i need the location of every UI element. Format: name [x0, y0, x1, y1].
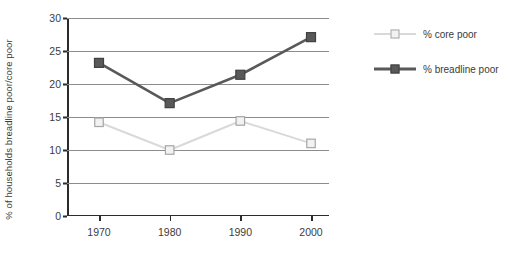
series-line	[99, 37, 311, 103]
series-line	[99, 121, 311, 150]
x-tick-mark	[240, 216, 242, 221]
data-point-marker	[95, 118, 104, 127]
data-point-marker	[307, 33, 316, 42]
x-tick-mark	[311, 216, 313, 221]
series-layer	[67, 18, 329, 216]
data-point-marker	[307, 139, 316, 148]
plot-area: 051015202530 1970198019902000	[67, 18, 329, 216]
data-point-marker	[165, 146, 174, 155]
y-tick-label: 0	[55, 210, 61, 222]
x-tick-mark	[99, 216, 101, 221]
x-tick-mark	[170, 216, 172, 221]
data-point-marker	[95, 58, 104, 67]
legend-key-core-poor	[374, 27, 416, 41]
open-square-icon	[391, 30, 400, 39]
y-tick-label: 10	[49, 144, 61, 156]
x-tick-label: 2000	[299, 226, 322, 238]
data-point-marker	[236, 70, 245, 79]
y-tick-label: 30	[49, 12, 61, 24]
x-tick-label: 1970	[87, 226, 110, 238]
legend-key-breadline-poor	[374, 62, 416, 76]
legend-item-breadline-poor: % breadline poor	[374, 56, 524, 82]
legend-label-core-poor: % core poor	[423, 29, 477, 40]
data-point-marker	[165, 99, 174, 108]
y-tick-label: 15	[49, 111, 61, 123]
x-tick-label: 1980	[158, 226, 181, 238]
chart-figure: % of households breadline poor/core poor…	[0, 0, 524, 259]
y-axis-title: % of households breadline poor/core poor	[0, 0, 16, 259]
filled-square-icon	[391, 65, 400, 74]
y-tick-label: 25	[49, 45, 61, 57]
y-tick-label: 20	[49, 78, 61, 90]
legend-label-breadline-poor: % breadline poor	[423, 64, 499, 75]
series-breadline-poor	[95, 33, 316, 108]
data-point-marker	[236, 117, 245, 126]
chart-legend: % core poor % breadline poor	[374, 21, 524, 91]
series-core-poor	[95, 117, 316, 155]
x-tick-label: 1990	[229, 226, 252, 238]
legend-item-core-poor: % core poor	[374, 21, 524, 47]
y-tick-label: 5	[55, 177, 61, 189]
